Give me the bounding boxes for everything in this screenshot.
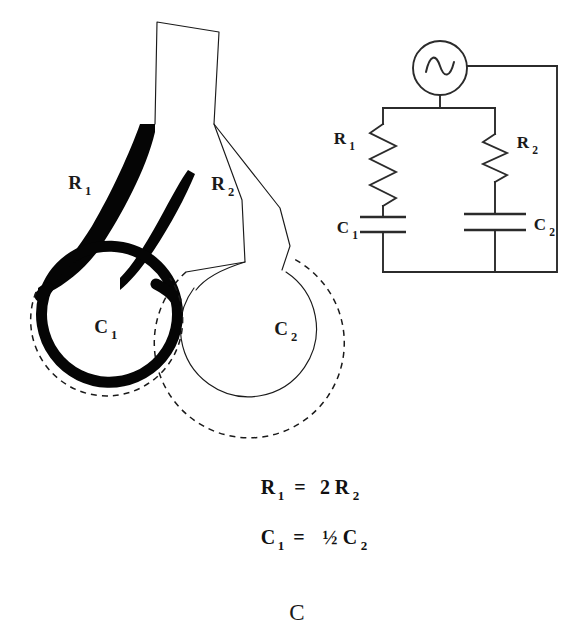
equation-r-operator: = — [294, 476, 305, 498]
equation-r-lhs-letter: R — [261, 476, 276, 498]
airway-c1-junction-left — [40, 288, 48, 296]
equation-c-rhs-subscript: 2 — [361, 538, 368, 553]
resistor-r2-zigzag — [483, 134, 507, 182]
alveolus-c1-label-subscript: 1 — [111, 328, 117, 342]
alveolus-c2-label: C — [274, 318, 288, 339]
resistor-r1-zigzag — [370, 124, 396, 206]
airway-r2-label: R — [211, 173, 225, 194]
right-airway-lower-wall — [186, 124, 245, 272]
equation-c-operator: = — [293, 526, 304, 548]
circuit-c2-label-subscript: 2 — [549, 226, 555, 238]
equation-c-lhs-subscript: 1 — [278, 538, 285, 553]
equation-c-lhs-letter: C — [261, 526, 275, 548]
alveolus-c1-wall — [42, 246, 178, 382]
equation-c-rhs-letter: C — [343, 526, 357, 548]
circuit-r1-label: R — [334, 129, 347, 148]
equation-r-lhs-subscript: 1 — [278, 488, 285, 503]
circuit-r2-label: R — [517, 133, 530, 152]
figure-canvas: R 1 R 2 C 1 C 2 — [0, 0, 588, 642]
equation-r-rhs-coefficient: 2 — [320, 476, 330, 498]
equation-r-rhs-letter: R — [335, 476, 350, 498]
circuit-group: R 1 C 1 R 2 C 2 — [334, 41, 557, 272]
equation-r-rhs-subscript: 2 — [353, 488, 360, 503]
circuit-c1-label: C — [337, 218, 349, 237]
equation-c-rhs-coefficient: ½ — [323, 526, 338, 548]
airway-r2-label-subscript: 2 — [228, 185, 234, 199]
lung-model-group: R 1 R 2 C 1 C 2 — [31, 22, 345, 438]
circuit-c1-label-subscript: 1 — [352, 229, 358, 241]
panel-letter: C — [289, 600, 304, 625]
alveolus-c2-label-subscript: 2 — [291, 330, 297, 344]
figure-root: R 1 R 2 C 1 C 2 — [0, 0, 588, 642]
airway-r1-label: R — [68, 172, 82, 193]
circuit-r1-label-subscript: 1 — [349, 140, 355, 152]
equations-group: R 1 = 2 R 2 C 1 = ½ C 2 — [261, 476, 367, 553]
airway-r1-label-subscript: 1 — [85, 184, 91, 198]
outer-return-wire — [383, 66, 557, 272]
circuit-c2-label: C — [534, 215, 546, 234]
circuit-r2-label-subscript: 2 — [532, 144, 538, 156]
alveolus-c1-label: C — [94, 316, 108, 337]
